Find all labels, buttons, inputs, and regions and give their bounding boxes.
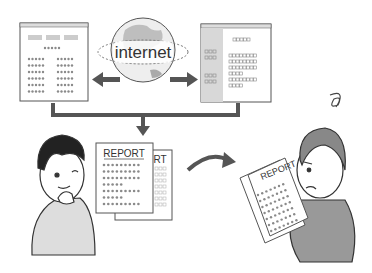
arrow-left-icon — [92, 72, 120, 87]
decorative-dot — [120, 203, 123, 206]
decorative-dot — [60, 58, 62, 60]
decorative-dot — [282, 211, 284, 213]
decorative-dot — [278, 185, 280, 187]
decorative-dot — [133, 164, 136, 167]
decorative-dot — [289, 215, 291, 217]
decorative-dot — [286, 195, 288, 197]
decorative-dot — [67, 58, 69, 60]
decorative-dot — [71, 71, 73, 73]
decorative-dot — [35, 90, 37, 92]
decorative-dot — [42, 84, 44, 86]
decorative-dot — [137, 177, 140, 180]
decorative-dot — [67, 64, 69, 66]
decorative-dot — [268, 210, 270, 212]
confusion-swirl-icon — [330, 93, 340, 107]
decorative-dot — [71, 64, 73, 66]
decorative-dot — [60, 90, 62, 92]
decorative-dot — [107, 170, 110, 173]
report-front: REPORT — [96, 143, 153, 213]
decorative-dot — [270, 216, 272, 218]
decorative-dot — [111, 196, 114, 199]
decorative-dot — [57, 64, 59, 66]
decorative-dot — [103, 196, 106, 199]
decorative-dot — [291, 207, 293, 209]
decorative-dot — [64, 58, 66, 60]
decorative-dot — [38, 90, 40, 92]
decorative-dot — [137, 164, 140, 167]
decorative-dot — [111, 177, 114, 180]
decorative-dot — [266, 218, 268, 220]
decorative-dot — [57, 90, 59, 92]
decorative-dot — [51, 47, 53, 49]
decorative-dot — [284, 203, 286, 205]
decorative-dot — [116, 170, 119, 173]
decorative-dot — [38, 77, 40, 79]
decorative-dot — [31, 77, 33, 79]
decorative-dot — [31, 84, 33, 86]
decorative-dot — [38, 84, 40, 86]
connector-arrow — [53, 103, 238, 128]
decorative-dot — [71, 84, 73, 86]
decorative-dot — [285, 217, 287, 219]
decorative-dot — [268, 224, 270, 226]
decorative-dot — [103, 164, 106, 167]
decorative-dot — [38, 58, 40, 60]
decorative-dot — [28, 84, 30, 86]
decorative-dot — [263, 198, 265, 200]
decorative-dot — [71, 90, 73, 92]
decorative-dot — [35, 77, 37, 79]
decorative-dot — [103, 183, 106, 186]
decorative-dot — [295, 219, 297, 221]
decorative-dot — [35, 84, 37, 86]
decorative-dot — [124, 164, 127, 167]
decorative-dot — [274, 187, 276, 189]
decorative-dot — [107, 183, 110, 186]
decorative-dot — [107, 164, 110, 167]
decorative-dot — [272, 208, 274, 210]
decorative-dot — [60, 71, 62, 73]
decorative-dot — [261, 192, 263, 194]
globe-label: internet — [115, 43, 172, 62]
decorative-dot — [120, 196, 123, 199]
decorative-dot — [280, 218, 282, 220]
decorative-dot — [289, 201, 291, 203]
student-person — [32, 135, 95, 255]
decorative-dot — [42, 77, 44, 79]
decorative-dot — [64, 90, 66, 92]
decorative-dot — [129, 190, 132, 193]
decorative-dot — [270, 230, 272, 232]
decorative-dot — [57, 77, 59, 79]
decorative-dot — [44, 47, 46, 49]
decorative-dot — [137, 190, 140, 193]
decorative-dot — [57, 71, 59, 73]
decorative-dot — [64, 71, 66, 73]
curved-arrow-icon — [188, 152, 236, 170]
decorative-dot — [120, 164, 123, 167]
decorative-dot — [276, 206, 278, 208]
decorative-dot — [291, 221, 293, 223]
decorative-dot — [129, 164, 132, 167]
decorative-dot — [107, 196, 110, 199]
decorative-dot — [28, 77, 30, 79]
decorative-dot — [137, 203, 140, 206]
decorative-dot — [103, 190, 106, 193]
decorative-dot — [35, 58, 37, 60]
decorative-dot — [111, 203, 114, 206]
decorative-dot — [287, 223, 289, 225]
decorative-dot — [35, 71, 37, 73]
decorative-dot — [259, 200, 261, 202]
decorative-dot — [111, 183, 114, 186]
arrow-right-icon — [170, 72, 198, 87]
decorative-dot — [71, 77, 73, 79]
teacher-person — [290, 93, 355, 262]
decorative-dot — [31, 58, 33, 60]
decorative-dot — [272, 194, 274, 196]
decorative-dot — [129, 170, 132, 173]
decorative-dot — [67, 71, 69, 73]
decorative-dot — [276, 220, 278, 222]
right-webpage — [201, 24, 271, 102]
decorative-dot — [265, 190, 267, 192]
decorative-dot — [116, 183, 119, 186]
decorative-dot — [60, 77, 62, 79]
decorative-dot — [270, 202, 272, 204]
